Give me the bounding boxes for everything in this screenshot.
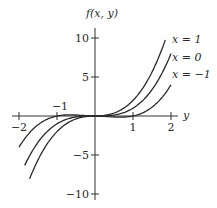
x-tick-neg2: −2 (11, 121, 27, 134)
x-tick-2: 2 (168, 121, 175, 134)
chart: 10 5 −5 −10 −2 −1 1 2 f(x, y) y x = 1 x … (0, 0, 217, 208)
curve-x-neg1 (30, 85, 171, 179)
x-tick-neg1: −1 (52, 100, 68, 113)
x-axis-label: y (182, 109, 190, 122)
x-tick-1: 1 (130, 121, 137, 134)
legend-x-neg1: x = −1 (172, 68, 211, 81)
curve-x-1 (19, 40, 165, 147)
y-tick-neg10: −10 (66, 188, 89, 201)
y-axis-label: f(x, y) (85, 7, 118, 20)
legend-x-0: x = 0 (172, 51, 201, 64)
y-tick-10: 10 (75, 32, 89, 45)
legend-x-1: x = 1 (172, 33, 201, 46)
y-tick-5: 5 (82, 71, 89, 84)
y-tick-neg5: −5 (73, 149, 89, 162)
